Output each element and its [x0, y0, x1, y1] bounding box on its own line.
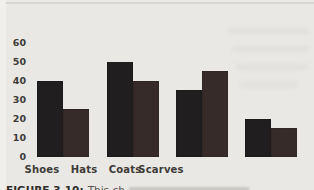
y-tick-label: 20 [0, 113, 26, 125]
y-tick-label: 0 [0, 151, 26, 163]
bar-coats-series-1 [176, 90, 202, 157]
figure-caption-label: FIGURE 3-10: [6, 184, 84, 190]
figure-top-rule [6, 2, 314, 4]
figure-caption-text: This ch [88, 184, 125, 190]
y-tick-label: 40 [0, 75, 26, 87]
print-bleed-artifact [240, 82, 298, 88]
x-category-label-scarves: Scarves [116, 164, 206, 175]
bar-shoes-series-1 [37, 81, 63, 157]
y-tick-label: 10 [0, 132, 26, 144]
bar-coats-series-2 [202, 71, 228, 157]
bar-shoes-series-2 [63, 109, 89, 157]
y-tick-label: 50 [0, 56, 26, 68]
y-tick-label: 30 [0, 94, 26, 106]
bar-scarves-series-1 [245, 119, 271, 157]
print-bleed-artifact [236, 64, 308, 70]
bar-scarves-series-2 [271, 128, 297, 157]
print-bleed-artifact [228, 28, 310, 34]
scanned-figure-page: 6050403020100 ShoesHatsCoatsScarves FIGU… [0, 0, 314, 190]
bar-hats-series-1 [107, 62, 133, 157]
y-tick-label: 60 [0, 37, 26, 49]
caption-smudge [129, 187, 249, 190]
figure-caption: FIGURE 3-10:This ch [6, 184, 306, 190]
bar-hats-series-2 [133, 81, 159, 157]
print-bleed-artifact [232, 46, 310, 52]
